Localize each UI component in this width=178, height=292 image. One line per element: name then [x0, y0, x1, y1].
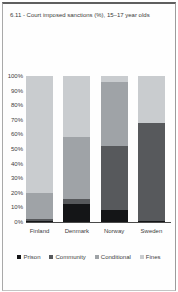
segment-fines	[138, 76, 165, 123]
legend-label: Conditional	[101, 254, 131, 260]
legend: PrisonCommunityConditionalFines	[4, 254, 174, 260]
y-tick-label: 10%	[0, 204, 23, 210]
legend-label: Prison	[23, 254, 40, 260]
y-tick-label: 40%	[0, 161, 23, 167]
x-tick-label-sweden: Sweden	[132, 228, 170, 234]
x-tick-label-denmark: Denmark	[58, 228, 96, 234]
segment-community	[138, 123, 165, 221]
legend-label: Fines	[146, 254, 161, 260]
legend-item-fines: Fines	[140, 254, 161, 260]
bar-sweden	[138, 76, 165, 222]
bar-norway	[101, 76, 128, 222]
plot-area: 0%10%20%30%40%50%60%70%80%90%100%	[8, 76, 171, 222]
y-tick-label: 90%	[0, 88, 23, 94]
legend-marker-icon	[17, 255, 21, 259]
legend-marker-icon	[49, 255, 53, 259]
segment-conditional	[26, 193, 53, 219]
y-tick-label: 80%	[0, 102, 23, 108]
y-tick-label: 50%	[0, 146, 23, 152]
legend-item-conditional: Conditional	[95, 254, 131, 260]
y-tick-label: 20%	[0, 190, 23, 196]
chart-title: 6.11 - Court imposed sanctions (%), 15–1…	[10, 11, 170, 19]
legend-item-prison: Prison	[17, 254, 40, 260]
bar-denmark	[63, 76, 90, 222]
legend-marker-icon	[95, 255, 99, 259]
y-tick-label: 60%	[0, 131, 23, 137]
legend-marker-icon	[140, 255, 144, 259]
legend-item-community: Community	[49, 254, 85, 260]
legend-label: Community	[55, 254, 85, 260]
segment-prison	[138, 221, 165, 222]
segment-conditional	[63, 137, 90, 198]
segment-fines	[63, 76, 90, 137]
x-tick-label-norway: Norway	[95, 228, 133, 234]
bar-finland	[26, 76, 53, 222]
y-tick-label: 100%	[0, 73, 23, 79]
y-tick-label: 0%	[0, 219, 23, 225]
segment-community	[101, 146, 128, 210]
x-axis: FinlandDenmarkNorwaySweden	[26, 228, 171, 238]
segment-prison	[63, 204, 90, 222]
segment-prison	[101, 210, 128, 222]
x-tick-label-finland: Finland	[21, 228, 59, 234]
segment-conditional	[101, 82, 128, 146]
segment-fines	[26, 76, 53, 193]
segment-prison	[26, 221, 53, 222]
bars-area	[26, 76, 171, 223]
y-tick-label: 70%	[0, 117, 23, 123]
y-tick-label: 30%	[0, 175, 23, 181]
